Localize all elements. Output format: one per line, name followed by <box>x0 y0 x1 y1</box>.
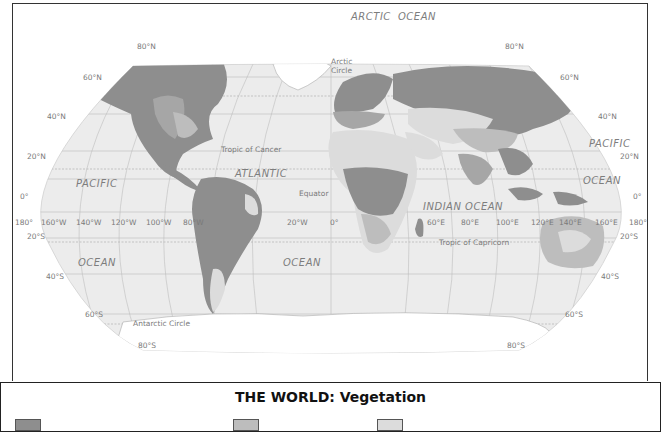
lat-0-west: 0° <box>20 192 29 201</box>
antarctic-circle-label: Antarctic Circle <box>133 319 190 328</box>
lat-0-east: 0° <box>633 192 642 201</box>
lon-140w: 140°W <box>76 218 102 227</box>
lon-180-west: 180° <box>15 218 33 227</box>
lat-80n-west: 80°N <box>137 42 156 51</box>
lat-60n-east: 60°N <box>560 73 579 82</box>
lon-160e: 160°E <box>595 218 618 227</box>
lon-120w: 120°W <box>111 218 137 227</box>
legend-swatch-3 <box>377 419 403 431</box>
atlantic-label: ATLANTIC <box>234 168 287 179</box>
lon-20w: 20°W <box>287 218 308 227</box>
lat-40n-east: 40°N <box>598 112 617 121</box>
lat-40n-west: 40°N <box>47 112 66 121</box>
arctic-circle-label-1: Arctic <box>331 57 352 66</box>
tropic-of-cancer-label: Tropic of Cancer <box>220 145 282 154</box>
arctic-label: ARCTIC <box>350 11 391 22</box>
lat-20n-west: 20°N <box>27 152 46 161</box>
lat-60s-west: 60°S <box>85 310 103 319</box>
pacific-west-label: PACIFIC <box>76 178 118 189</box>
ocean-west-label: OCEAN <box>78 257 116 268</box>
lon-180-east: 180° <box>629 218 647 227</box>
arctic-ocean-label: OCEAN <box>398 11 436 22</box>
lon-80e: 80°E <box>461 218 479 227</box>
arctic-circle-label-2: Circle <box>331 66 352 75</box>
world-vegetation-map: ARCTIC OCEAN PACIFIC OCEAN ATLANTIC OCEA… <box>13 4 649 382</box>
lat-60s-east: 60°S <box>565 310 583 319</box>
lat-40s-west: 40°S <box>46 272 64 281</box>
lon-100w: 100°W <box>146 218 172 227</box>
map-frame: ARCTIC OCEAN PACIFIC OCEAN ATLANTIC OCEA… <box>12 3 648 381</box>
lat-20s-west: 20°S <box>27 232 45 241</box>
tropic-of-capricorn-label: Tropic of Capricorn <box>438 238 509 247</box>
lon-120e: 120°E <box>531 218 554 227</box>
lon-160w: 160°W <box>41 218 67 227</box>
lat-20s-east: 20°S <box>620 232 638 241</box>
lat-80n-east: 80°N <box>505 42 524 51</box>
lat-60n-west: 60°N <box>83 73 102 82</box>
lat-80s-west: 80°S <box>138 341 156 350</box>
ocean-east-label: OCEAN <box>583 175 621 186</box>
lat-80s-east: 80°S <box>507 341 525 350</box>
title-panel: THE WORLD: Vegetation <box>0 382 661 432</box>
map-title: THE WORLD: Vegetation <box>1 389 660 405</box>
pacific-east-label: PACIFIC <box>589 138 631 149</box>
lon-100e: 100°E <box>496 218 519 227</box>
lon-0: 0° <box>330 218 339 227</box>
lat-20n-east: 20°N <box>620 152 639 161</box>
legend-swatch-1 <box>15 419 41 431</box>
lon-60e: 60°E <box>427 218 445 227</box>
ocean-atlantic-label: OCEAN <box>283 257 321 268</box>
lon-140e: 140°E <box>559 218 582 227</box>
lon-80w: 80°W <box>183 218 204 227</box>
indian-ocean-label: INDIAN OCEAN <box>423 201 503 212</box>
equator-label: Equator <box>299 189 329 198</box>
legend-swatch-2 <box>233 419 259 431</box>
lat-40s-east: 40°S <box>601 272 619 281</box>
